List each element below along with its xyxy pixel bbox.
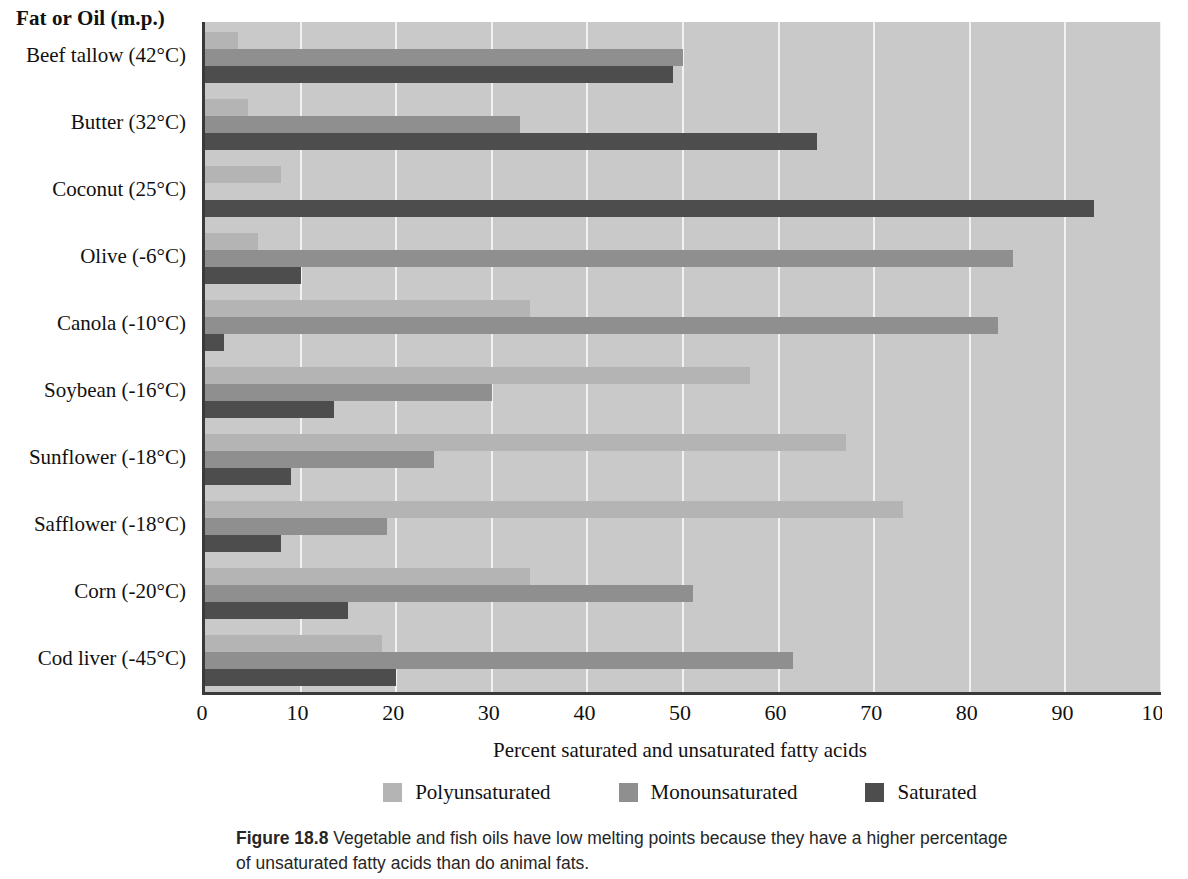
bar-sat: [205, 133, 817, 150]
bar-group: [205, 223, 1161, 290]
category-label: Sunflower (-18°C): [29, 424, 186, 491]
legend-item: Monounsaturated: [619, 780, 798, 805]
legend-label: Monounsaturated: [651, 780, 798, 805]
bar-poly: [205, 32, 238, 49]
chart-legend: PolyunsaturatedMonounsaturatedSaturated: [202, 778, 1158, 806]
category-label: Olive (-6°C): [80, 223, 186, 290]
figure-number: Figure 18.8: [236, 828, 328, 848]
bar-sat: [205, 66, 673, 83]
bar-sat: [205, 468, 291, 485]
bar-mono: [205, 116, 520, 133]
x-tick-label: 70: [860, 700, 882, 726]
legend-item: Polyunsaturated: [383, 780, 550, 805]
legend-item: Saturated: [865, 780, 976, 805]
x-tick-label: 90: [1051, 700, 1073, 726]
category-label: Coconut (25°C): [52, 156, 186, 223]
bar-group: [205, 89, 1161, 156]
category-axis-labels: Beef tallow (42°C)Butter (32°C)Coconut (…: [0, 22, 194, 692]
bar-mono: [205, 585, 693, 602]
bar-sat: [205, 200, 1094, 217]
x-tick-label: 10: [287, 700, 309, 726]
category-label: Butter (32°C): [71, 89, 186, 156]
bar-mono: [205, 518, 387, 535]
plot-area: [202, 22, 1161, 695]
x-tick-label: 0: [197, 700, 208, 726]
bar-poly: [205, 635, 382, 652]
bar-poly: [205, 233, 258, 250]
bar-group: [205, 156, 1161, 223]
bar-group: [205, 625, 1161, 692]
bar-mono: [205, 451, 434, 468]
x-tick-label: 30: [478, 700, 500, 726]
bar-poly: [205, 367, 750, 384]
figure-18-8: Fat or Oil (m.p.) Beef tallow (42°C)Butt…: [0, 0, 1188, 879]
bar-poly: [205, 166, 281, 183]
bar-group: [205, 558, 1161, 625]
x-tick-label: 50: [669, 700, 691, 726]
category-label: Beef tallow (42°C): [26, 22, 186, 89]
legend-swatch-icon: [865, 783, 884, 802]
x-tick-label: 80: [956, 700, 978, 726]
x-tick-label: 40: [573, 700, 595, 726]
category-label: Cod liver (-45°C): [38, 625, 186, 692]
x-tick-label: 20: [382, 700, 404, 726]
bar-group: [205, 357, 1161, 424]
bar-sat: [205, 401, 334, 418]
bar-sat: [205, 535, 281, 552]
bar-group: [205, 22, 1161, 89]
bar-mono: [205, 652, 793, 669]
legend-label: Polyunsaturated: [415, 780, 550, 805]
bar-poly: [205, 501, 903, 518]
category-label: Canola (-10°C): [57, 290, 186, 357]
bar-poly: [205, 434, 846, 451]
category-label: Soybean (-16°C): [44, 357, 186, 424]
bar-mono: [205, 384, 492, 401]
legend-label: Saturated: [897, 780, 976, 805]
bar-group: [205, 491, 1161, 558]
bar-mono: [205, 250, 1013, 267]
bar-mono: [205, 317, 998, 334]
bar-group: [205, 290, 1161, 357]
category-label: Safflower (-18°C): [34, 491, 186, 558]
figure-caption-text: Vegetable and fish oils have low melting…: [236, 828, 1007, 873]
bar-mono: [205, 49, 683, 66]
x-tick-label: 60: [765, 700, 787, 726]
bar-sat: [205, 602, 348, 619]
legend-swatch-icon: [619, 783, 638, 802]
bar-group: [205, 424, 1161, 491]
bar-sat: [205, 334, 224, 351]
bar-poly: [205, 300, 530, 317]
legend-swatch-icon: [383, 783, 402, 802]
bar-sat: [205, 669, 396, 686]
category-label: Corn (-20°C): [74, 558, 186, 625]
bar-poly: [205, 99, 248, 116]
bar-poly: [205, 568, 530, 585]
x-axis-tick-labels: 0102030405060708090100: [202, 700, 1158, 734]
figure-caption: Figure 18.8 Vegetable and fish oils have…: [236, 826, 1026, 877]
bar-sat: [205, 267, 301, 284]
x-axis-title: Percent saturated and unsaturated fatty …: [202, 738, 1158, 763]
page-margin: [1162, 0, 1188, 879]
